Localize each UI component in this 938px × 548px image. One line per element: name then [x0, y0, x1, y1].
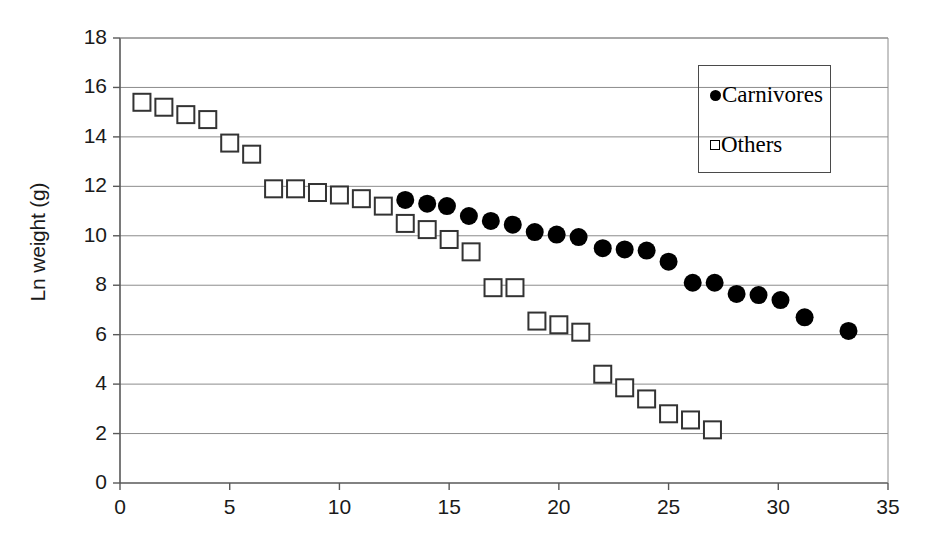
y-tick-label-18: 18: [63, 25, 107, 49]
legend-label-carnivores: Carnivores: [722, 82, 823, 108]
data-point-other: [419, 221, 436, 238]
y-tick-label-14: 14: [63, 124, 107, 148]
data-point-other: [528, 313, 545, 330]
legend-item-carnivores: Carnivores: [710, 82, 823, 108]
data-point-other: [506, 279, 523, 296]
data-point-carnivore: [438, 197, 456, 215]
data-point-carnivore: [638, 242, 656, 260]
data-point-other: [199, 111, 216, 128]
data-point-carnivore: [594, 239, 612, 257]
data-point-other: [331, 186, 348, 203]
x-tick-label-10: 10: [317, 495, 361, 519]
data-point-carnivore: [616, 240, 634, 258]
filled-circle-icon: [710, 90, 721, 101]
y-tick-label-8: 8: [63, 272, 107, 296]
data-point-other: [353, 190, 370, 207]
data-point-other: [441, 231, 458, 248]
data-point-carnivore: [796, 308, 814, 326]
data-point-other: [704, 421, 721, 438]
data-point-other: [638, 390, 655, 407]
data-point-other: [155, 99, 172, 116]
x-tick-label-30: 30: [756, 495, 800, 519]
data-point-carnivore: [706, 274, 724, 292]
open-square-icon: [710, 140, 720, 150]
data-point-other: [463, 243, 480, 260]
data-point-carnivore: [482, 212, 500, 230]
y-tick-label-4: 4: [63, 371, 107, 395]
data-point-other: [616, 379, 633, 396]
x-tick-label-20: 20: [537, 495, 581, 519]
data-point-other: [221, 135, 238, 152]
x-tick-label-15: 15: [427, 495, 471, 519]
y-tick-label-2: 2: [63, 421, 107, 445]
data-point-other: [660, 405, 677, 422]
y-tick-label-10: 10: [63, 223, 107, 247]
data-point-other: [375, 198, 392, 215]
data-point-other: [397, 215, 414, 232]
data-point-carnivore: [548, 226, 566, 244]
data-point-other: [550, 316, 567, 333]
data-point-carnivore: [660, 253, 678, 271]
data-point-other: [485, 279, 502, 296]
x-tick-label-35: 35: [866, 495, 910, 519]
data-point-other: [243, 146, 260, 163]
data-point-carnivore: [460, 207, 478, 225]
y-tick-label-0: 0: [63, 470, 107, 494]
y-tick-label-12: 12: [63, 173, 107, 197]
legend-label-others: Others: [721, 132, 782, 158]
data-point-carnivore: [396, 191, 414, 209]
data-point-other: [594, 366, 611, 383]
y-tick-label-6: 6: [63, 322, 107, 346]
data-point-other: [682, 411, 699, 428]
y-axis-title: Ln weight (g): [26, 142, 50, 342]
data-point-carnivore: [771, 291, 789, 309]
data-point-carnivore: [840, 322, 858, 340]
data-point-other: [572, 324, 589, 341]
data-point-carnivore: [526, 223, 544, 241]
data-point-other: [265, 180, 282, 197]
legend-item-others: Others: [710, 132, 782, 158]
data-point-carnivore: [418, 195, 436, 213]
scatter-chart-figure: Ln weight (g) 181614121086420 0510152025…: [0, 0, 938, 548]
data-point-other: [133, 94, 150, 111]
y-tick-label-16: 16: [63, 74, 107, 98]
data-point-carnivore: [570, 228, 588, 246]
data-point-carnivore: [728, 285, 746, 303]
x-tick-label-5: 5: [208, 495, 252, 519]
data-point-other: [287, 180, 304, 197]
data-point-carnivore: [504, 216, 522, 234]
data-point-other: [177, 106, 194, 123]
data-point-other: [309, 184, 326, 201]
data-point-carnivore: [684, 274, 702, 292]
data-point-carnivore: [750, 286, 768, 304]
series-others-markers: [133, 94, 721, 439]
x-tick-label-25: 25: [647, 495, 691, 519]
series-carnivores-markers: [396, 191, 857, 340]
x-tick-label-0: 0: [98, 495, 142, 519]
